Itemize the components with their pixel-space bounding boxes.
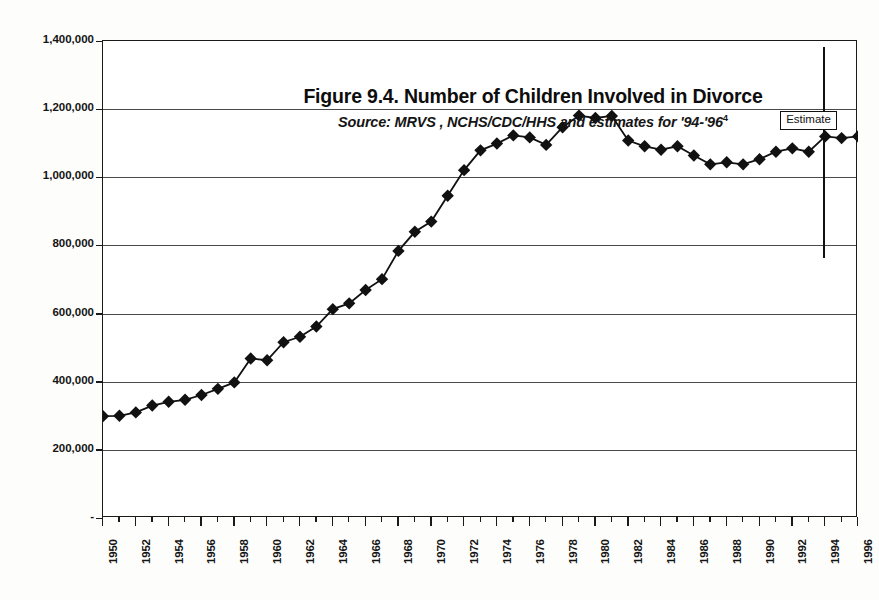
x-axis-tick-label: 1976 [534, 539, 546, 564]
x-tick-minor [184, 517, 185, 522]
data-point-marker [507, 129, 519, 141]
data-point-marker [491, 137, 503, 149]
x-axis-tick-label: 1970 [435, 539, 447, 564]
x-axis-tick-label: 1992 [796, 539, 808, 564]
data-point-marker [638, 140, 650, 152]
data-point-marker [425, 215, 437, 227]
x-axis-tick-label: 1958 [238, 539, 250, 564]
y-axis-tick-label: 200,000 [2, 442, 94, 454]
x-tick-minor [512, 517, 513, 522]
y-axis-tick-label: 1,000,000 [2, 169, 94, 181]
x-tick-minor [841, 517, 842, 522]
x-tick-major [102, 517, 103, 526]
x-tick-major [726, 517, 727, 526]
x-tick-minor [775, 517, 776, 522]
x-tick-minor [480, 517, 481, 522]
x-tick-major [233, 517, 234, 526]
y-axis-tick-label: - [2, 510, 94, 522]
x-tick-minor [676, 517, 677, 522]
y-axis-tick-label: 400,000 [2, 374, 94, 386]
x-tick-major [594, 517, 595, 526]
x-tick-major [824, 517, 825, 526]
x-tick-major [627, 517, 628, 526]
x-tick-major [430, 517, 431, 526]
x-tick-major [693, 517, 694, 526]
x-tick-major [529, 517, 530, 526]
x-axis-tick-label: 1956 [205, 539, 217, 564]
y-tick-mark [96, 177, 103, 179]
data-point-marker [245, 352, 257, 364]
y-tick-mark [96, 313, 103, 315]
x-tick-minor [611, 517, 612, 522]
x-tick-major [168, 517, 169, 526]
data-point-marker [376, 273, 388, 285]
x-axis-ticks [102, 517, 857, 527]
data-point-marker [589, 112, 601, 124]
x-tick-minor [578, 517, 579, 522]
data-point-marker [113, 410, 125, 422]
plot-area: Figure 9.4. Number of Children Involved … [102, 40, 857, 517]
x-tick-minor [348, 517, 349, 522]
x-tick-minor [808, 517, 809, 522]
x-axis-tick-label: 1964 [337, 539, 349, 564]
data-point-marker [179, 394, 191, 406]
x-tick-minor [283, 517, 284, 522]
x-tick-major [200, 517, 201, 526]
x-tick-major [397, 517, 398, 526]
data-point-marker [228, 376, 240, 388]
x-tick-major [365, 517, 366, 526]
x-axis-tick-label: 1996 [862, 539, 874, 564]
data-point-marker [130, 406, 142, 418]
x-tick-major [496, 517, 497, 526]
x-axis-tick-label: 1966 [370, 539, 382, 564]
x-axis-tick-label: 1974 [501, 539, 513, 564]
x-tick-minor [151, 517, 152, 522]
data-point-marker [770, 146, 782, 158]
y-tick-mark [96, 245, 103, 247]
y-tick-mark [96, 449, 103, 451]
data-point-marker [852, 130, 858, 142]
data-point-marker [195, 389, 207, 401]
y-axis-tick-label: 800,000 [2, 237, 94, 249]
data-point-marker [212, 383, 224, 395]
data-point-marker [606, 110, 618, 122]
x-axis-tick-label: 1988 [731, 539, 743, 564]
data-point-marker [671, 140, 683, 152]
x-axis-tick-label: 1982 [632, 539, 644, 564]
x-tick-minor [414, 517, 415, 522]
x-axis-tick-label: 1960 [271, 539, 283, 564]
data-point-marker [655, 143, 667, 155]
x-tick-major [791, 517, 792, 526]
x-tick-minor [742, 517, 743, 522]
x-tick-major [463, 517, 464, 526]
x-axis-tick-label: 1986 [698, 539, 710, 564]
x-tick-minor [447, 517, 448, 522]
x-tick-major [135, 517, 136, 526]
x-tick-minor [217, 517, 218, 522]
x-axis-tick-label: 1980 [599, 539, 611, 564]
data-series-layer [103, 41, 858, 518]
x-tick-major [332, 517, 333, 526]
data-point-marker [737, 158, 749, 170]
data-point-marker [835, 132, 847, 144]
data-point-marker [103, 410, 109, 422]
x-axis-tick-label: 1972 [468, 539, 480, 564]
x-axis-tick-label: 1954 [173, 539, 185, 564]
data-point-marker [146, 399, 158, 411]
x-axis-tick-label: 1990 [764, 539, 776, 564]
x-axis-labels: 1950195219541956195819601962196419661968… [0, 528, 879, 598]
data-point-marker [622, 134, 634, 146]
data-point-marker [753, 153, 765, 165]
x-tick-major [759, 517, 760, 526]
x-tick-minor [381, 517, 382, 522]
figure-container: 1,400,0001,200,0001,000,000800,000600,00… [0, 0, 879, 600]
y-tick-mark [96, 381, 103, 383]
x-axis-tick-label: 1952 [140, 539, 152, 564]
y-axis-tick-label: 1,400,000 [2, 33, 94, 45]
y-axis-tick-label: 1,200,000 [2, 101, 94, 113]
x-tick-minor [315, 517, 316, 522]
x-tick-major [660, 517, 661, 526]
estimate-annotation-box: Estimate [780, 111, 837, 130]
data-point-marker [786, 142, 798, 154]
x-axis-tick-label: 1950 [107, 539, 119, 564]
